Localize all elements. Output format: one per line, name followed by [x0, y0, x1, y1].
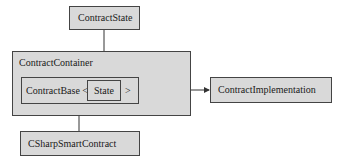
- csharp-smart-contract-label: CSharpSmartContract: [28, 138, 116, 149]
- contract-state-node: ContractState: [69, 6, 140, 30]
- csharp-smart-contract-node: CSharpSmartContract: [20, 131, 140, 156]
- contract-implementation-node: ContractImplementation: [210, 77, 332, 103]
- state-node: State: [87, 80, 121, 101]
- contract-implementation-label: ContractImplementation: [218, 84, 316, 95]
- contract-container-label: ContractContainer: [19, 57, 93, 68]
- contract-base-label: ContractBase <: [26, 85, 88, 96]
- contract-state-label: ContractState: [78, 12, 132, 23]
- generic-close-label: >: [125, 85, 131, 96]
- contract-base-node: ContractBase < >: [21, 77, 139, 104]
- state-label: State: [94, 85, 114, 96]
